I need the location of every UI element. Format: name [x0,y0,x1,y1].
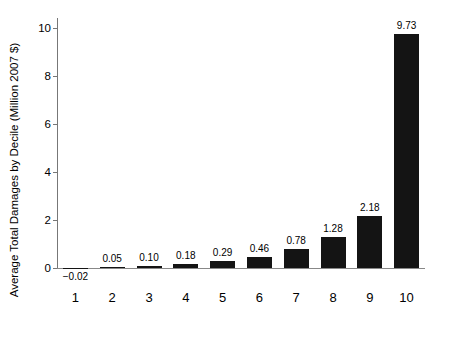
x-tick-label: 10 [399,290,413,305]
bar-value-label: 1.28 [323,223,342,234]
x-tick-label: 7 [293,290,300,305]
x-tick-label: 9 [366,290,373,305]
bar-value-label: −0.02 [63,271,88,282]
bar[interactable] [284,249,309,268]
bar-value-label: 0.18 [176,250,195,261]
bar[interactable] [210,261,235,268]
x-axis-spine [57,268,425,269]
x-tick-label: 8 [329,290,336,305]
bar-value-label: 0.46 [250,243,269,254]
bar-slot: 0.10 [137,18,162,268]
bar-chart-figure: Average Total Damages by Decile (Million… [0,0,457,340]
y-axis-label: Average Total Damages by Decile (Million… [0,0,28,340]
y-tick-label: 2 [45,214,51,226]
bar[interactable] [63,268,88,269]
bar-slot: 0.46 [247,18,272,268]
y-tick-mark [53,172,57,173]
x-tick-label: 2 [109,290,116,305]
y-tick-label: 4 [45,166,51,178]
y-tick-mark [53,76,57,77]
bar-value-label: 0.78 [286,235,305,246]
bar-value-label: 0.05 [102,253,121,264]
bar[interactable] [321,237,346,268]
bar-slot: 0.05 [100,18,125,268]
bar[interactable] [247,257,272,268]
y-tick-label: 8 [45,70,51,82]
bar[interactable] [173,264,198,268]
y-tick-mark [53,28,57,29]
y-tick-label: 10 [38,22,51,34]
x-tick-label: 4 [182,290,189,305]
y-tick-mark [53,124,57,125]
x-tick-label: 3 [145,290,152,305]
x-tick-label: 1 [72,290,79,305]
x-tick-label: 5 [219,290,226,305]
bar-slot: 2.18 [357,18,382,268]
x-tick-label: 6 [256,290,263,305]
bar-slot: 9.73 [394,18,419,268]
y-tick-label: 0 [45,262,51,274]
bar-slot: 1.28 [321,18,346,268]
y-tick-mark [53,268,57,269]
bar-value-label: 0.10 [139,252,158,263]
bar[interactable] [100,267,125,268]
y-tick-label: 6 [45,118,51,130]
bar-value-label: 9.73 [397,20,416,31]
bar-slot: 0.29 [210,18,235,268]
bar-slot: 0.18 [173,18,198,268]
y-tick-mark [53,220,57,221]
y-axis-spine [57,18,58,268]
bar[interactable] [394,34,419,268]
bar-value-label: 2.18 [360,202,379,213]
bar-value-label: 0.29 [213,247,232,258]
bar[interactable] [357,216,382,268]
plot-area: 0246810 −0.020.050.100.180.290.460.781.2… [57,18,425,268]
bar-slot: −0.02 [63,18,88,268]
bar-slot: 0.78 [284,18,309,268]
bar[interactable] [137,266,162,268]
